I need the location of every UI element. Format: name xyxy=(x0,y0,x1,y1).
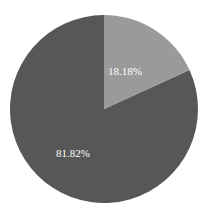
slice-label-18-18: 18.18% xyxy=(108,65,142,77)
slice-label-81-82: 81.82% xyxy=(56,147,90,159)
pie-chart: 18.18% 81.82% xyxy=(0,0,208,214)
